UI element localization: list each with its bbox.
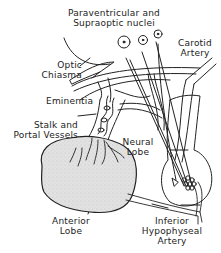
label-inferior-hypophyseal-artery: Inferior Hypophyseal Artery [138, 216, 206, 246]
label-eminentia: Eminentia [46, 96, 93, 106]
label-optic-chiasma: Optic Chiasma [40, 60, 82, 80]
label-chiasma-line1: Optic [40, 60, 82, 70]
label-carotid-line1: Carotid [170, 38, 220, 48]
label-nuclei-line2: Supraoptic nuclei [64, 18, 164, 28]
label-neural-lobe: Neural Lobe [118, 137, 158, 157]
label-inferior-line3: Artery [138, 236, 206, 246]
label-nuclei: Paraventricular and Supraoptic nuclei [64, 8, 164, 28]
label-carotid-line2: Artery [170, 48, 220, 58]
label-anterior-lobe: Anterior Lobe [48, 216, 94, 236]
capillary-plexus-neural-lobe [182, 176, 196, 190]
label-nuclei-line1: Paraventricular and [64, 8, 164, 18]
label-stalk-portal-vessels: Stalk and Portal Vessels [4, 120, 78, 140]
label-anterior-line2: Lobe [48, 226, 94, 236]
label-carotid-artery: Carotid Artery [170, 38, 220, 58]
label-inferior-line1: Inferior [138, 216, 206, 226]
label-stalk-line1: Stalk and [4, 120, 78, 130]
carotid-artery [186, 58, 216, 84]
label-chiasma-line2: Chiasma [40, 70, 82, 80]
label-inferior-line2: Hypophyseal [138, 226, 206, 236]
label-neural-line1: Neural [118, 137, 158, 147]
label-anterior-line1: Anterior [48, 216, 94, 226]
label-stalk-line2: Portal Vessels [4, 130, 78, 140]
label-neural-line2: Lobe [118, 147, 158, 157]
